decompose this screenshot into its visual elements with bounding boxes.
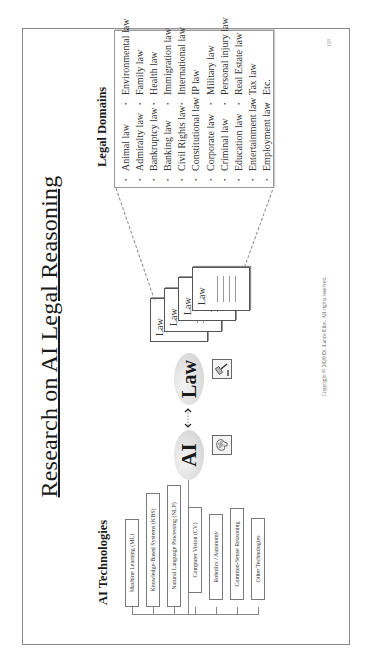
domain-item: •Bankruptcy law xyxy=(147,97,161,181)
legal-domains-column-2: •Environmental law •Family law •Health l… xyxy=(119,17,274,105)
legal-domains-heading: Legal Domains xyxy=(95,87,110,167)
brain-icon xyxy=(212,435,232,455)
domain-item: •Family law xyxy=(133,17,147,105)
tech-box-natural-language-processing: Natural Language Processing (NLP) xyxy=(167,485,181,607)
gavel-icon xyxy=(212,359,232,379)
domain-item: •International law xyxy=(175,17,189,105)
domain-item: •Military law xyxy=(204,17,218,105)
ai-oval: AI xyxy=(174,430,204,480)
domain-item: •Immigration law xyxy=(161,17,175,105)
tree-branch xyxy=(174,607,175,615)
domain-item: •Health law xyxy=(147,17,161,105)
legal-domains-column-1: •Animal law •Admiralty law •Bankruptcy l… xyxy=(119,97,274,181)
tech-box-computer-vision: Computer Vision (CV) xyxy=(188,507,202,593)
domain-item: •Criminal law xyxy=(218,97,232,181)
slide-title: Research on AI Legal Reasoning xyxy=(36,28,63,645)
domain-item: •Animal law xyxy=(119,97,133,181)
domain-item: •Environmental law xyxy=(119,17,133,105)
page-number: 118 xyxy=(326,39,332,47)
tech-box-knowledge-based-systems: Knowledge-Based Systems (KBS) xyxy=(146,493,160,607)
legal-domains-box: •Animal law •Admiralty law •Bankruptcy l… xyxy=(114,30,274,188)
domain-item: •Entertainment law xyxy=(246,97,260,181)
domain-item: •Admiralty law xyxy=(133,97,147,181)
domain-item: •IP law xyxy=(189,17,203,105)
copyright-notice: Copyright © 2020 Dr. Lance Eliot. All ri… xyxy=(321,28,327,645)
domain-item: •Tax law xyxy=(246,17,260,105)
callout-line-top xyxy=(116,188,155,300)
tech-box-common-sense-reasoning: Common-Sense Reasoning xyxy=(230,508,244,600)
double-arrow-icon xyxy=(183,407,193,429)
domain-item: •Civil Rights law xyxy=(175,97,189,181)
domain-item: •Employment law xyxy=(260,97,274,181)
tree-branch xyxy=(216,607,217,615)
law-document: Law xyxy=(192,267,250,311)
domain-item: •Real Estate law xyxy=(232,17,246,105)
slide: Research on AI Legal Reasoning AI Techno… xyxy=(22,28,350,645)
tree-branch xyxy=(195,607,196,615)
domain-item: •Education law xyxy=(232,97,246,181)
law-oval: Law xyxy=(174,353,204,405)
tree-branch xyxy=(153,607,154,615)
law-document-label: Law xyxy=(196,287,207,305)
tree-branch xyxy=(237,607,238,615)
tech-box-robotics-autonomy: Robotics / Autonomy xyxy=(209,514,223,600)
domain-item: •Constitutional law xyxy=(189,97,203,181)
tree-branch xyxy=(258,607,259,615)
domain-item: •Personal injury law xyxy=(218,17,232,105)
domain-item: •Corporate law xyxy=(204,97,218,181)
ai-technologies-heading: AI Technologies xyxy=(96,520,111,605)
tree-branch xyxy=(132,607,133,615)
domain-item: •Banking law xyxy=(161,97,175,181)
tech-box-machine-learning: Machine Learning (ML) xyxy=(125,519,139,607)
tech-box-other-technologies: Other Technologies xyxy=(251,518,265,600)
domain-item: •Etc. xyxy=(260,17,274,105)
callout-line-bottom xyxy=(244,190,273,267)
